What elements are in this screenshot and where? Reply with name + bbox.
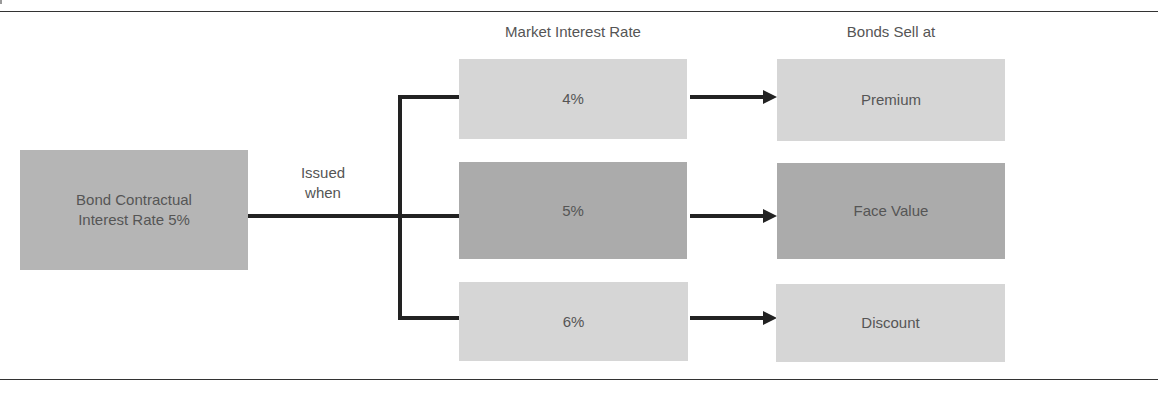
market-rate-value-2: 5% xyxy=(562,201,584,221)
header-market-interest-rate: Market Interest Rate xyxy=(459,22,687,42)
arrow-head-icon-1 xyxy=(763,90,777,104)
source-box-contractual-rate: Bond Contractual Interest Rate 5% xyxy=(20,150,248,270)
market-rate-value-1: 4% xyxy=(562,89,584,109)
market-rate-box-3: 6% xyxy=(459,282,688,361)
top-rule xyxy=(0,11,1158,12)
outcome-box-1: Premium xyxy=(777,59,1005,141)
arrow-shaft-2 xyxy=(690,214,764,218)
arrow-shaft-3 xyxy=(690,316,764,320)
market-rate-value-3: 6% xyxy=(563,312,585,332)
issued-when-line1: Issued xyxy=(278,163,368,183)
outcome-value-2: Face Value xyxy=(854,201,929,221)
outcome-box-2: Face Value xyxy=(777,163,1005,259)
outcome-value-1: Premium xyxy=(861,90,921,110)
arrow-shaft-1 xyxy=(690,95,764,99)
bottom-rule xyxy=(0,379,1158,380)
connector-vertical xyxy=(398,95,402,320)
arrow-head-icon-3 xyxy=(763,311,777,325)
connector-branch-3 xyxy=(398,316,459,320)
header-bonds-sell-at: Bonds Sell at xyxy=(777,22,1005,42)
connector-main xyxy=(248,214,460,218)
market-rate-box-2: 5% xyxy=(459,162,687,259)
corner-mark xyxy=(0,0,2,4)
outcome-box-3: Discount xyxy=(776,284,1005,362)
source-text-line2: Interest Rate 5% xyxy=(78,210,190,230)
issued-when-line2: when xyxy=(278,183,368,203)
outcome-value-3: Discount xyxy=(861,313,919,333)
connector-branch-1 xyxy=(398,95,459,99)
issued-when-label: Issued when xyxy=(278,163,368,203)
source-text-line1: Bond Contractual xyxy=(76,190,192,210)
arrow-head-icon-2 xyxy=(763,209,777,223)
market-rate-box-1: 4% xyxy=(459,59,687,139)
